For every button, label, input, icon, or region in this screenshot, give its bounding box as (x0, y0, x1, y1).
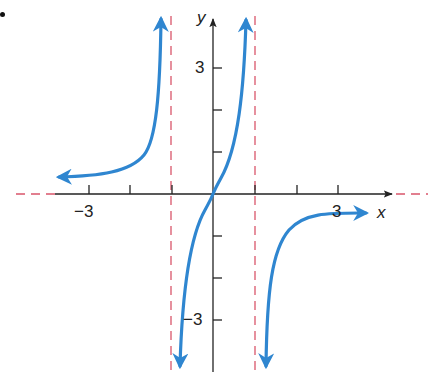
y-axis (213, 19, 222, 372)
x-axis (55, 185, 392, 194)
y-tick-label-neg3: −3 (183, 311, 202, 328)
x-tick-label-pos3: 3 (332, 203, 341, 220)
x-axis-label: x (377, 204, 386, 221)
curve-left-branch (59, 19, 161, 177)
y-axis-label: y (197, 9, 206, 26)
y-tick-label-pos3: 3 (195, 59, 204, 76)
rational-function-graph (0, 0, 431, 373)
curve-right-branch (266, 213, 366, 366)
x-tick-label-neg3: −3 (74, 203, 93, 220)
